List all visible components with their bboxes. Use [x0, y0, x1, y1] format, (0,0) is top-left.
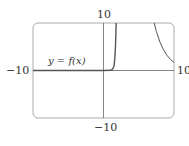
- x-max-tick-label: 10: [177, 65, 189, 76]
- y-max-tick-label: 10: [97, 9, 111, 20]
- y-min-tick-label: −10: [94, 122, 117, 133]
- function-label: y = f(x): [48, 56, 86, 66]
- x-min-tick-label: −10: [6, 65, 29, 76]
- curve-branch-2: [154, 23, 174, 62]
